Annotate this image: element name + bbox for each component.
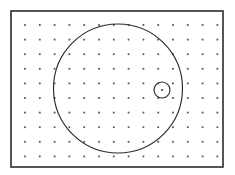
grid-dot [39,126,41,128]
grid-dot [187,83,189,85]
figure-canvas [0,0,235,175]
grid-dot [143,39,145,41]
grid-dot [69,53,71,55]
grid-dot [202,156,204,158]
grid-dot [69,24,71,26]
grid-dot [83,39,85,41]
grid-dot [54,156,56,158]
grid-dot [202,53,204,55]
grid-dot [69,83,71,85]
grid-dot [54,112,56,114]
grid-dot [98,39,100,41]
grid-dot [202,141,204,143]
grid-dot [128,53,130,55]
grid-dot [113,83,115,85]
grid-dot [98,141,100,143]
grid-dot [39,141,41,143]
grid-dot [113,68,115,70]
grid-dot [202,126,204,128]
grid-dot [54,24,56,26]
grid-dot [113,141,115,143]
grid-dot [69,126,71,128]
grid-dot [98,112,100,114]
grid-dot [69,156,71,158]
grid-dot [113,97,115,99]
grid-dot [157,24,159,26]
grid-dot [143,68,145,70]
grid-dot [98,83,100,85]
grid-dot [98,53,100,55]
grid-dot [69,39,71,41]
grid-dot [172,112,174,114]
grid-dot [98,126,100,128]
grid-dot [83,156,85,158]
grid-dot [83,83,85,85]
grid-dot [187,39,189,41]
grid-dot [187,126,189,128]
grid-dot [113,112,115,114]
grid-dot [113,39,115,41]
grid-dot [39,83,41,85]
geometric-figure [0,0,235,175]
grid-dot [217,97,219,99]
grid-dot [24,53,26,55]
grid-dot [217,83,219,85]
grid-dot [83,97,85,99]
grid-dot [69,68,71,70]
grid-dot [187,156,189,158]
grid-dot [172,83,174,85]
grid-dot [83,112,85,114]
grid-dot [157,68,159,70]
grid-dot [217,141,219,143]
grid-dot [39,156,41,158]
grid-dot [24,126,26,128]
grid-dot [202,83,204,85]
grid-dot [24,39,26,41]
grid-dot [54,68,56,70]
grid-dot [128,68,130,70]
grid-dot [39,53,41,55]
grid-dot [202,112,204,114]
grid-dot [39,68,41,70]
grid-dot [143,112,145,114]
grid-dot [217,68,219,70]
grid-dot [187,112,189,114]
grid-dot [24,112,26,114]
grid-dot [217,112,219,114]
grid-dot [143,53,145,55]
grid-dot [143,24,145,26]
grid-dot [187,97,189,99]
grid-dot [39,39,41,41]
grid-dot [143,141,145,143]
grid-dot [172,97,174,99]
grid-dot [202,39,204,41]
grid-dot [202,24,204,26]
grid-dot [172,141,174,143]
grid-dot [128,112,130,114]
grid-dot [83,68,85,70]
grid-dot [217,39,219,41]
grid-dot [128,141,130,143]
grid-dot [113,156,115,158]
grid-dot [128,83,130,85]
grid-dot [157,112,159,114]
grid-dot [113,53,115,55]
grid-dot [172,126,174,128]
grid-dot [143,156,145,158]
outer-frame [11,11,223,167]
grid-dot [83,53,85,55]
grid-dot [54,126,56,128]
grid-dot [143,83,145,85]
grid-dot [128,39,130,41]
small-circle-center-dot [161,89,163,91]
grid-dot [202,68,204,70]
grid-dot [39,97,41,99]
grid-dot [143,97,145,99]
grid-dot [217,156,219,158]
grid-dot [217,126,219,128]
grid-dot [187,141,189,143]
grid-dot [24,83,26,85]
grid-dot [187,53,189,55]
grid-dot [113,126,115,128]
grid-dot [98,68,100,70]
